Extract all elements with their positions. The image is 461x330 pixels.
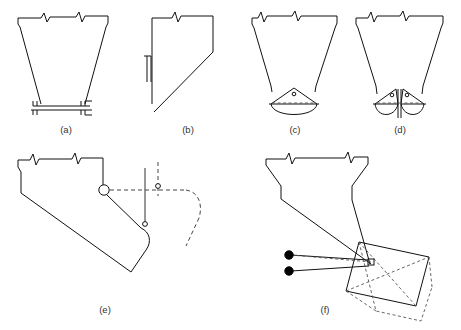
panel-a: (a) [18,12,108,135]
panel-e-hoist-line [18,153,103,185]
panel-e-alternate-position [110,162,200,246]
panel-a-label: (a) [60,124,72,135]
panel-f-alternate-position [346,242,432,321]
panel-a-hoist-line [18,12,108,24]
panel-f-pivot-assembly [285,251,374,275]
panel-d-pivot-right-icon [405,93,409,97]
panel-a-cutting-edge [31,101,92,115]
panel-e-main-pivot-icon [99,185,109,195]
panel-a-bucket-body [18,23,108,104]
panel-d-pivot-left-icon [390,93,394,97]
panel-f: (f) [266,152,432,321]
panel-d-funnel-walls [356,23,443,94]
panel-b: (b) [144,12,213,135]
panel-e-scraper-body [18,167,149,272]
panel-d-hoist-line [356,11,443,24]
panel-f-cables [266,164,371,264]
panel-e-alt-pivot-icon [156,184,161,189]
panel-e-linkage [143,168,148,226]
panel-f-anchor-lower-icon [285,267,293,275]
panel-d: (d) [356,11,443,135]
panel-e: (e) [18,153,200,315]
panel-b-body-outline [152,23,213,112]
figure-root: (a) (b) [0,0,461,330]
panel-f-label: (f) [321,304,330,315]
panel-e-lower-pivot-icon [143,222,148,227]
panel-b-label: (b) [182,124,194,135]
panel-c-hoist-line [252,11,337,24]
panel-e-label: (e) [99,304,111,315]
panel-f-anchor-upper-icon [285,251,293,259]
panel-b-hoist-line [152,12,213,24]
bucket-types-figure: (a) (b) [0,0,461,330]
panel-c-pivot-icon [292,92,296,96]
panel-c: (c) [252,11,337,135]
panel-b-bracket-mark [144,56,151,82]
panel-f-hoist-line [266,152,368,165]
panel-c-funnel-walls [252,23,337,92]
panel-c-label: (c) [289,124,300,135]
panel-d-label: (d) [394,124,406,135]
